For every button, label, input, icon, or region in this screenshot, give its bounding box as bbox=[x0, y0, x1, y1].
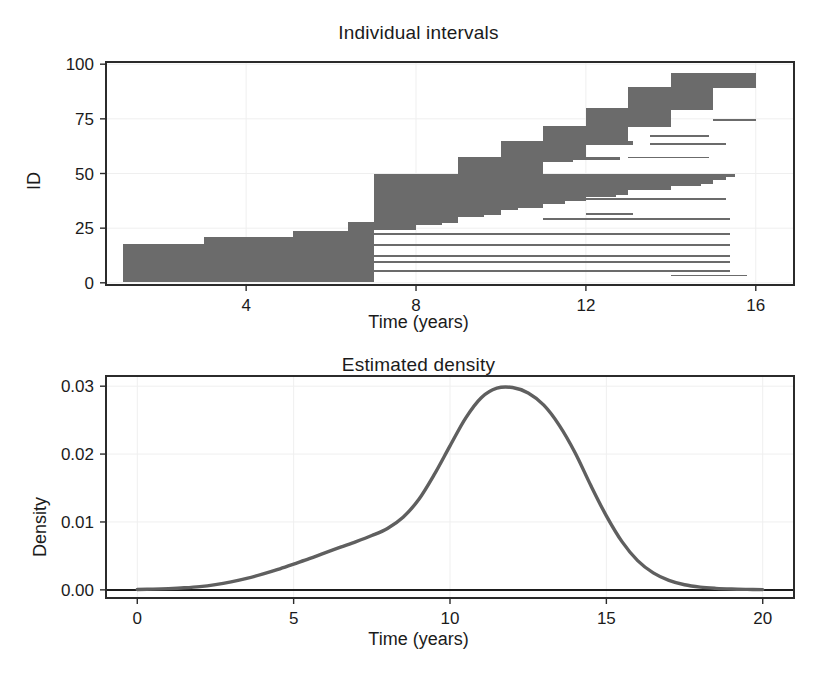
intervals-x-axis-title: Time (years) bbox=[0, 312, 837, 333]
panel-individual-intervals: Individual intervals 4812160255075100 Ti… bbox=[0, 0, 837, 345]
svg-text:0: 0 bbox=[133, 609, 142, 628]
svg-text:15: 15 bbox=[597, 609, 616, 628]
svg-text:5: 5 bbox=[289, 609, 298, 628]
figure-root: Individual intervals 4812160255075100 Ti… bbox=[0, 0, 837, 691]
svg-text:50: 50 bbox=[75, 165, 94, 184]
svg-text:100: 100 bbox=[66, 55, 94, 74]
svg-text:0: 0 bbox=[85, 274, 94, 293]
intervals-y-axis-title: ID bbox=[24, 172, 45, 190]
svg-text:0.03: 0.03 bbox=[61, 377, 94, 396]
density-y-axis-title: Density bbox=[30, 497, 51, 557]
density-x-axis-title: Time (years) bbox=[0, 629, 837, 650]
panel-estimated-density: Estimated density 051015200.000.010.020.… bbox=[0, 345, 837, 691]
svg-text:10: 10 bbox=[441, 609, 460, 628]
svg-text:0.02: 0.02 bbox=[61, 445, 94, 464]
svg-text:20: 20 bbox=[753, 609, 772, 628]
svg-text:0.00: 0.00 bbox=[61, 581, 94, 600]
svg-text:75: 75 bbox=[75, 110, 94, 129]
svg-text:25: 25 bbox=[75, 219, 94, 238]
svg-text:0.01: 0.01 bbox=[61, 513, 94, 532]
intervals-plot-canvas: 4812160255075100 bbox=[0, 0, 837, 345]
